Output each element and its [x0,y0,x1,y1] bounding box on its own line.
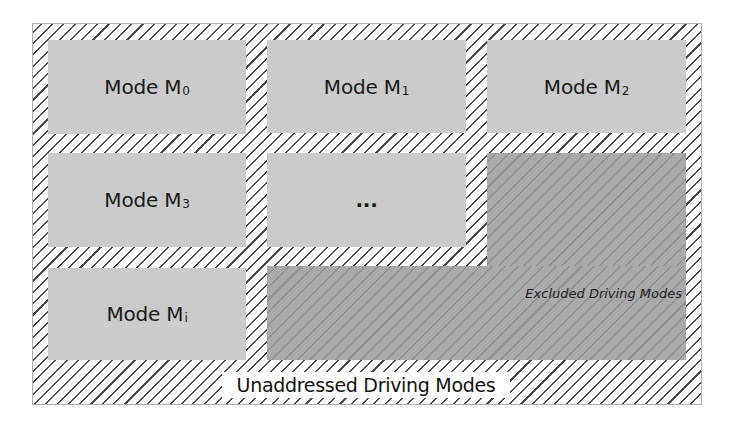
mode-m1-box: Mode M1 [267,40,466,133]
mode-m2-box: Mode M2 [487,40,686,133]
mode-m0-box: Mode M0 [48,40,246,134]
mode-mi-box: Mode Mi [48,268,246,360]
unaddressed-driving-modes-label: Unaddressed Driving Modes [222,372,510,398]
mode-subscript: 3 [182,197,189,211]
mode-subscript: 2 [622,84,629,98]
mode-m3-box: Mode M3 [48,153,246,247]
excluded-driving-modes-label: Excluded Driving Modes [498,286,682,301]
mode-label: ... [355,188,377,212]
mode-ellipsis-box: ... [267,153,466,247]
excluded-region-top [487,153,686,267]
mode-label: Mode M [104,188,181,212]
excluded-region-bottom [267,266,686,360]
mode-label: Mode M [106,302,183,326]
mode-subscript: 0 [182,84,189,98]
mode-label: Mode M [544,75,621,99]
mode-subscript: 1 [402,84,409,98]
mode-label: Mode M [104,75,181,99]
mode-label: Mode M [324,75,401,99]
mode-subscript: i [184,311,187,325]
